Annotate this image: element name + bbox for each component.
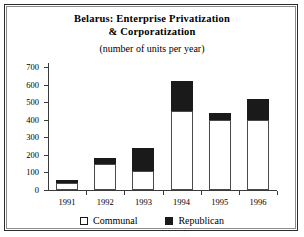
y-tick-100: [44, 172, 49, 173]
x-tick-1995: [239, 191, 240, 195]
x-tick-1994: [201, 191, 202, 195]
bar-segment-republican-1995[interactable]: [209, 113, 231, 120]
x-tick-1993: [163, 191, 164, 195]
bar-1995[interactable]: [209, 67, 231, 190]
bar-1992[interactable]: [94, 67, 116, 190]
y-tick-600: [44, 85, 49, 86]
x-tick-1996: [277, 191, 278, 195]
bar-1996[interactable]: [247, 67, 269, 190]
bar-segment-communal-1995[interactable]: [209, 120, 231, 190]
y-tick-label-700: 700: [9, 63, 39, 72]
x-tick-label-1991: 1991: [47, 197, 87, 207]
y-tick-300: [44, 137, 49, 138]
y-tick-label-100: 100: [9, 168, 39, 177]
bar-segment-republican-1993[interactable]: [132, 148, 154, 171]
x-tick-label-1993: 1993: [123, 197, 163, 207]
y-tick-label-200: 200: [9, 151, 39, 160]
bar-segment-republican-1996[interactable]: [247, 99, 269, 120]
legend-item-republican[interactable]: Republican: [165, 215, 224, 226]
chart-legend: Communal Republican: [5, 215, 299, 226]
y-tick-label-0: 0: [9, 186, 39, 195]
legend-label-republican: Republican: [178, 215, 224, 226]
x-tick-label-1992: 1992: [85, 197, 125, 207]
bar-segment-republican-1994[interactable]: [171, 81, 193, 111]
y-tick-label-300: 300: [9, 133, 39, 142]
bar-1993[interactable]: [132, 67, 154, 190]
bar-segment-communal-1991[interactable]: [56, 183, 78, 190]
y-tick-500: [44, 102, 49, 103]
y-tick-700: [44, 67, 49, 68]
bar-1994[interactable]: [171, 67, 193, 190]
x-tick-label-1994: 1994: [162, 197, 202, 207]
x-tick-1991: [86, 191, 87, 195]
legend-swatch-communal: [80, 217, 88, 225]
legend-label-communal: Communal: [93, 215, 137, 226]
legend-swatch-republican: [165, 217, 173, 225]
y-tick-0: [44, 190, 49, 191]
y-tick-label-500: 500: [9, 98, 39, 107]
y-tick-400: [44, 120, 49, 121]
x-tick-1992: [124, 191, 125, 195]
bar-segment-communal-1994[interactable]: [171, 111, 193, 190]
y-tick-label-400: 400: [9, 116, 39, 125]
legend-item-communal[interactable]: Communal: [80, 215, 137, 226]
bar-1991[interactable]: [56, 67, 78, 190]
x-tick-label-1995: 1995: [200, 197, 240, 207]
y-tick-200: [44, 155, 49, 156]
plot-area: 0100200300400500600700 19911992199319941…: [5, 5, 299, 232]
bar-segment-communal-1996[interactable]: [247, 120, 269, 190]
x-tick-label-1996: 1996: [238, 197, 278, 207]
y-tick-label-600: 600: [9, 81, 39, 90]
bar-segment-republican-1991[interactable]: [56, 180, 78, 183]
bar-segment-communal-1993[interactable]: [132, 171, 154, 190]
bar-segment-republican-1992[interactable]: [94, 158, 116, 163]
bar-segment-communal-1992[interactable]: [94, 164, 116, 190]
chart-frame: Belarus: Enterprise Privatization & Corp…: [4, 4, 298, 231]
